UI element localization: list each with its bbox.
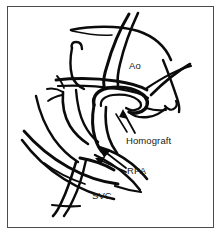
lower-left-outer-limb bbox=[52, 205, 80, 206]
left-branch-trunk bbox=[63, 92, 88, 144]
vessel-stump-body bbox=[71, 48, 85, 89]
aortic-arch-lower-stroke bbox=[72, 31, 112, 35]
label-ao: Ao bbox=[129, 61, 141, 71]
label-svc: SVC bbox=[92, 191, 112, 201]
aorta-right-wall bbox=[118, 13, 138, 85]
label-homograft: Homograft bbox=[126, 136, 171, 146]
figure-root: Ao Homograft RPA SVC bbox=[0, 0, 224, 243]
left-branch-twig-b bbox=[48, 95, 62, 101]
lower-left-vessel-a bbox=[53, 162, 76, 216]
right-vessel-notch bbox=[165, 101, 177, 110]
label-rpa: RPA bbox=[127, 166, 146, 176]
anatomy-drawing bbox=[0, 0, 224, 243]
aorta-left-wall bbox=[104, 14, 129, 86]
left-branch-twig-a bbox=[47, 89, 63, 92]
homograft-arrowhead-icon bbox=[119, 109, 128, 119]
